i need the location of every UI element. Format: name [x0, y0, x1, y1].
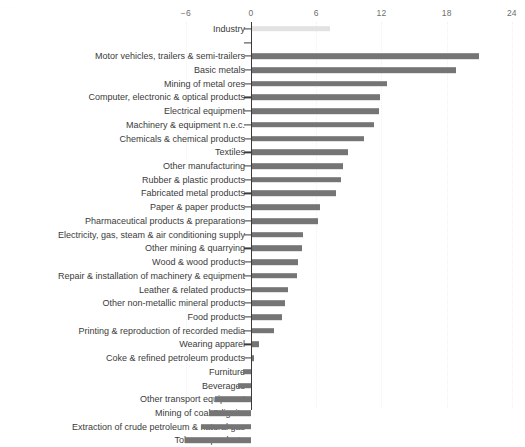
bar: [252, 273, 297, 279]
bar: [252, 300, 285, 306]
bar: [252, 108, 379, 114]
category-label: Fabricated metal products: [141, 188, 245, 198]
y-axis-tick: [244, 220, 251, 221]
y-axis-tick: [244, 330, 251, 331]
plot-area: IndustryMotor vehicles, trailers & semi-…: [0, 22, 525, 410]
bar: [215, 397, 251, 403]
bar: [252, 218, 318, 224]
y-axis-tick: [244, 234, 251, 235]
bar: [252, 67, 456, 73]
bar: [201, 424, 251, 430]
category-label: Motor vehicles, trailers & semi-trailers: [95, 51, 245, 61]
category-label: Rubber & plastic products: [142, 175, 245, 185]
y-axis-tick: [244, 179, 251, 180]
y-axis-tick: [244, 56, 251, 57]
y-axis-tick: [244, 42, 251, 43]
x-tick-label-24: 24: [507, 8, 517, 18]
bar: [252, 26, 330, 32]
y-axis-tick: [244, 138, 251, 139]
category-label: Computer, electronic & optical products: [88, 92, 245, 102]
chart-row: Other transport equipment: [0, 392, 525, 406]
category-label: Food products: [187, 312, 245, 322]
category-label: Other mining & quarrying: [145, 243, 245, 253]
y-axis-tick: [244, 248, 251, 249]
category-label: Electrical equipment: [164, 106, 245, 116]
bar: [252, 287, 288, 293]
bar: [252, 259, 298, 265]
x-tick-label-12: 12: [377, 8, 387, 18]
chart-row: Other non-metallic mineral products: [0, 296, 525, 310]
chart-row: Leather & related products: [0, 283, 525, 297]
chart-row: Tobacco products: [0, 434, 525, 447]
corner-artifact: ...: [4, 1, 13, 8]
chart-row: Chemicals & chemical products: [0, 132, 525, 146]
category-label: Chemicals & chemical products: [119, 134, 245, 144]
chart-row: Computer, electronic & optical products: [0, 91, 525, 105]
chart-row: Wearing apparel: [0, 338, 525, 352]
bar: [185, 438, 251, 444]
bar: [252, 246, 302, 252]
x-tick-label-18: 18: [442, 8, 452, 18]
chart-row: Electricity, gas, steam & air conditioni…: [0, 228, 525, 242]
chart-row: Motor vehicles, trailers & semi-trailers: [0, 49, 525, 63]
chart-row: Wood & wood products: [0, 255, 525, 269]
bar: [252, 122, 374, 128]
chart-row: Beverages: [0, 379, 525, 393]
chart-row: Fabricated metal products: [0, 187, 525, 201]
y-axis-tick: [244, 275, 251, 276]
bar: [252, 342, 259, 348]
bar: [252, 54, 479, 60]
x-tick-label-6: 6: [314, 8, 319, 18]
bar: [252, 328, 274, 334]
chart-row: Basic metals: [0, 63, 525, 77]
y-axis-tick: [244, 207, 251, 208]
category-label: Repair & installation of machinery & equ…: [58, 271, 245, 281]
y-axis-tick: [244, 262, 251, 263]
category-label: Wearing apparel: [179, 339, 245, 349]
category-label: Leather & related products: [139, 285, 245, 295]
category-label: Wood & wood products: [152, 257, 245, 267]
chart-row: Electrical equipment: [0, 104, 525, 118]
y-axis-tick: [244, 193, 251, 194]
y-axis-tick: [244, 152, 251, 153]
y-axis-tick: [244, 111, 251, 112]
bar: [209, 410, 251, 416]
y-axis-tick: [244, 83, 251, 84]
chart-row: Textiles: [0, 145, 525, 159]
chart-row: Extraction of crude petroleum & natural …: [0, 420, 525, 434]
category-label: Machinery & equipment n.e.c.: [126, 120, 245, 130]
category-label: Other non-metallic mineral products: [102, 298, 245, 308]
chart-row: [0, 36, 525, 50]
bar: [238, 383, 251, 389]
y-axis-tick: [244, 28, 251, 29]
bar: [252, 191, 336, 197]
chart-row: Other manufacturing: [0, 159, 525, 173]
bar: [252, 136, 364, 142]
category-label: Other manufacturing: [163, 161, 245, 171]
bar: [252, 314, 282, 320]
bar: [252, 95, 380, 101]
chart-row: Printing & reproduction of recorded medi…: [0, 324, 525, 338]
chart-row: Industry: [0, 22, 525, 36]
y-axis-tick: [244, 124, 251, 125]
chart-row: Paper & paper products: [0, 200, 525, 214]
category-label: Industry: [213, 24, 245, 34]
chart-row: Repair & installation of machinery & equ…: [0, 269, 525, 283]
bar: [243, 369, 251, 375]
chart-row: Rubber & plastic products: [0, 173, 525, 187]
chart-row: Coke & refined petroleum products: [0, 351, 525, 365]
chart-row: Food products: [0, 310, 525, 324]
category-label: Printing & reproduction of recorded medi…: [78, 326, 245, 336]
chart-row: Other mining & quarrying: [0, 242, 525, 256]
y-axis-tick: [244, 289, 251, 290]
bar: [252, 355, 254, 361]
chart-row: Machinery & equipment n.e.c.: [0, 118, 525, 132]
y-axis-tick: [244, 165, 251, 166]
bar: [252, 163, 343, 169]
category-label: Pharmaceutical products & preparations: [85, 216, 245, 226]
y-axis-tick: [244, 69, 251, 70]
category-label: Furniture: [209, 367, 245, 377]
x-tick-label-neg6: −6: [181, 8, 191, 18]
chart-row: Mining of coal & lignite: [0, 406, 525, 420]
